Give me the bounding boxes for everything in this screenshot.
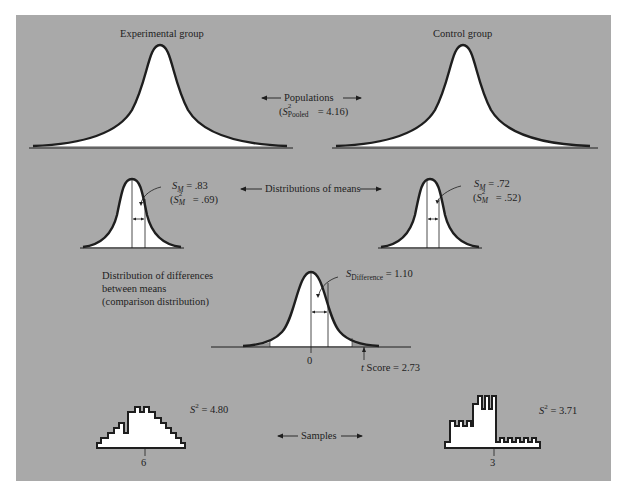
- subscript: Difference: [351, 273, 383, 282]
- distributions-of-means-label: Distributions of means: [265, 183, 361, 195]
- subscript: M: [179, 199, 185, 208]
- experimental-sample-variance: S2 = 4.80: [190, 402, 228, 416]
- experimental-population-curve: [29, 45, 293, 148]
- pooled-variance-label: (S2Pooled= 4.16): [279, 106, 348, 118]
- experimental-group-title: Experimental group: [120, 28, 204, 40]
- superscript: 2: [482, 188, 486, 196]
- variance-value: = 4.80: [201, 404, 228, 415]
- sd-value: = 1.10: [386, 268, 413, 279]
- populations-label: Populations: [284, 92, 334, 104]
- experimental-means-distribution: [80, 179, 184, 248]
- superscript: 2: [195, 402, 199, 410]
- sup-sub: 2Pooled: [288, 107, 318, 117]
- sm-value: = .72: [488, 178, 510, 189]
- control-means-distribution: [378, 179, 482, 248]
- comparison-title-line-1: Distribution of differences: [102, 270, 213, 282]
- samples-label: Samples: [301, 430, 337, 442]
- t-score-value: Score = 2.73: [364, 362, 420, 373]
- zero-tick-label: 0: [307, 355, 312, 367]
- sup-sub: 2M: [179, 195, 193, 205]
- comparison-title-line-3: (comparison distribution): [102, 296, 209, 308]
- t-score-label: t Score = 2.73: [361, 362, 420, 374]
- diagram-graphics: [0, 0, 623, 488]
- superscript: 2: [179, 190, 183, 198]
- subscript: M: [482, 197, 488, 206]
- experimental-sample-histogram: [97, 407, 185, 456]
- pooled-value: = 4.16): [318, 106, 348, 117]
- sm-value: = .83: [186, 180, 208, 191]
- s-difference-label: SDifference = 1.10: [346, 268, 413, 283]
- sup-sub: 2M: [482, 193, 496, 203]
- variance-value: = 3.71: [550, 405, 577, 416]
- control-sm-label: SM = .72: [474, 178, 510, 193]
- control-variance-m-label: (S2M= .52): [473, 192, 521, 204]
- control-sample-mean-tick: 3: [490, 457, 495, 469]
- comparison-distribution: [211, 272, 411, 360]
- experimental-variance-m-label: (S2M= .69): [170, 194, 218, 206]
- control-sample-histogram: [445, 396, 540, 456]
- superscript: 2: [288, 102, 292, 110]
- subscript: Pooled: [288, 111, 309, 120]
- control-population-curve: [332, 45, 598, 148]
- experimental-sm-label: SM = .83: [172, 180, 208, 195]
- control-sample-variance: S2 = 3.71: [539, 403, 577, 417]
- control-group-title: Control group: [433, 28, 492, 40]
- superscript: 2: [544, 403, 548, 411]
- experimental-sample-mean-tick: 6: [141, 457, 146, 469]
- variance-value: = .69): [193, 194, 218, 205]
- variance-value: = .52): [496, 192, 521, 203]
- comparison-title-line-2: between means: [102, 283, 166, 295]
